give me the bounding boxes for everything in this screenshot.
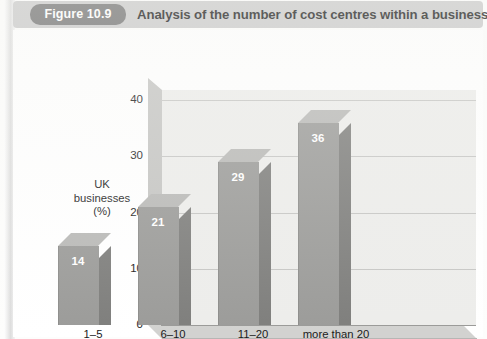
bar-top-face	[58, 233, 111, 246]
bar-value-label: 14	[58, 255, 98, 267]
bar-value-label: 21	[138, 216, 178, 228]
figure-header-bar: Figure 10.9 Analysis of the number of co…	[13, 1, 483, 28]
bar-front-face	[298, 123, 339, 325]
axis-baseline	[161, 325, 476, 326]
bar-side-face	[338, 123, 351, 325]
bar-11-20-cost-centres[interactable]: 29	[218, 30, 258, 325]
bar-value-label: 29	[218, 171, 258, 183]
bar-6-10-cost-centres[interactable]: 21	[138, 30, 178, 325]
bar-value-label: 36	[298, 132, 338, 144]
xtick-label-line-1: more than 20	[276, 328, 396, 339]
chart-area: 40 30 20 10 0 UK businesses (%) 14 21	[13, 30, 483, 337]
bar-more-than-20-cost-centres[interactable]: 36	[298, 30, 338, 325]
figure-page: Figure 10.9 Analysis of the number of co…	[0, 0, 487, 339]
bar-side-face	[178, 207, 191, 325]
bar-side-face	[98, 246, 111, 325]
bar-side-face	[258, 162, 271, 325]
figure-number-badge: Figure 10.9	[30, 4, 126, 25]
bar-1-5-cost-centres[interactable]: 14	[58, 30, 98, 325]
bar-front-face	[218, 162, 259, 325]
xtick-label-more-than-20: more than 20 cost centres	[276, 328, 396, 339]
figure-title: Analysis of the number of cost centres w…	[137, 5, 487, 24]
